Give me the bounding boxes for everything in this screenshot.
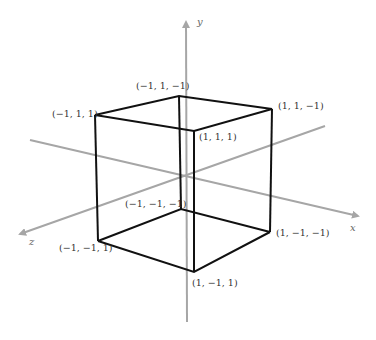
vertex-label: (1, −1, −1)	[276, 227, 330, 238]
x-axis-label: x	[350, 222, 356, 233]
cube-edges	[95, 96, 272, 272]
vertex-label: (1, −1, 1)	[192, 277, 238, 288]
vertex-label: (1, 1, −1)	[278, 100, 324, 111]
vertex-label: (1, 1, 1)	[199, 131, 237, 142]
vertex-label: (−1, −1, −1)	[125, 198, 187, 209]
cube-diagram	[0, 0, 376, 340]
y-axis-label: y	[197, 16, 203, 27]
vertex-label: (−1, 1, −1)	[136, 80, 190, 91]
z-axis	[20, 126, 325, 234]
vertex-label: (−1, −1, 1)	[59, 242, 113, 253]
vertex-label: (−1, 1, 1)	[52, 108, 98, 119]
y-axis	[186, 22, 187, 322]
z-axis-label: z	[29, 236, 34, 247]
